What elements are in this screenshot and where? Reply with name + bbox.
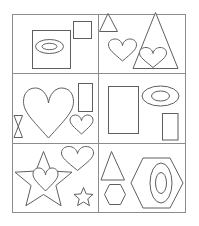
cell-top-right [100, 13, 179, 69]
small-star-shape [74, 188, 93, 206]
oval-ring-inner [42, 43, 57, 49]
cell-top-left [33, 22, 92, 69]
hourglass-shape [14, 116, 23, 138]
oval-ring-inner [152, 91, 170, 101]
triangle-shape [101, 152, 125, 181]
large-heart-shape [24, 88, 74, 138]
heart-shape [109, 39, 137, 61]
small-hexagon-shape [105, 185, 126, 205]
cell-bottom-right [101, 152, 183, 209]
heart-shape [62, 147, 94, 171]
worksheet-svg [0, 0, 199, 226]
rectangle-shape [79, 84, 93, 112]
large-rectangle-shape [109, 87, 139, 134]
small-heart-shape [70, 115, 93, 134]
small-rectangle-shape [163, 114, 179, 141]
shapes-worksheet [0, 0, 199, 226]
small-triangle-shape [100, 14, 118, 32]
small-square-shape [74, 22, 92, 39]
cell-middle-left [14, 84, 93, 139]
hexagon-ring-inner [156, 173, 167, 194]
cell-middle-right [109, 86, 180, 140]
cell-bottom-left [15, 147, 94, 206]
